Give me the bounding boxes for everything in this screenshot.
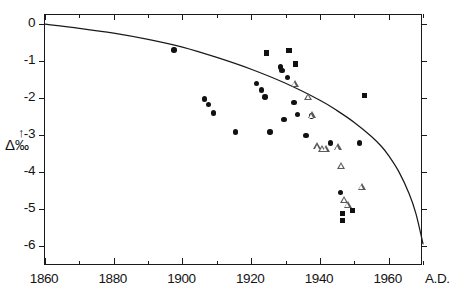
x-axis-minor-tick-top [148,14,149,18]
data-point-circle [259,87,264,92]
x-axis-tick-label: 1860 [18,271,70,286]
x-axis-tick-label: 1960 [362,271,414,286]
data-point-square [362,93,367,98]
y-axis-tick [39,61,45,62]
x-axis-minor-tick [217,261,218,265]
data-point-triangle [322,145,330,152]
y-axis-tick-label: -6 [2,237,35,252]
data-point-circle [267,129,272,134]
y-axis-tick [39,135,45,136]
x-axis-tick-label: 1940 [293,271,345,286]
trend-curve [45,15,423,266]
data-point-circle [171,47,176,52]
data-point-circle [357,140,362,145]
x-axis-tick [114,258,115,265]
x-axis-tick [251,258,252,265]
y-axis-tick-right [421,209,427,210]
x-axis-minor-tick [79,261,80,265]
data-point-circle [206,102,211,107]
x-axis-minor-tick-top [79,14,80,18]
data-point-triangle [304,93,312,100]
x-axis-tick-label: 1900 [155,271,207,286]
y-axis-tick [39,172,45,173]
y-axis-tick-right [421,24,427,25]
y-axis-tick-label: -5 [2,200,35,215]
data-point-circle [254,81,259,86]
data-point-square [340,211,345,216]
data-point-circle [291,100,296,105]
x-axis-minor-tick [354,261,355,265]
x-axis-tick-top [389,14,390,20]
y-axis-tick-label: -4 [2,163,35,178]
y-axis-tick-label: -1 [2,52,35,67]
x-axis-tick [182,258,183,265]
y-axis-tick-right [421,98,427,99]
y-axis-tick-right [421,61,427,62]
x-axis-minor-tick-top [217,14,218,18]
y-axis-tick [39,98,45,99]
data-point-triangle [337,162,345,169]
x-axis-minor-tick-top [286,14,287,18]
data-point-triangle [291,80,299,87]
y-axis-tick-label: 0 [2,15,35,30]
x-axis-tick-top [114,14,115,20]
x-axis-minor-tick [148,261,149,265]
data-point-square [340,218,345,223]
data-point-square [264,50,269,55]
chart-figure: ↑ Δ‰ A.D. 0-1-2-3-4-5-618601880190019201… [0,0,451,299]
x-axis-tick-top [182,14,183,20]
data-point-circle [285,75,290,80]
y-axis-tick-right [421,135,427,136]
data-point-circle [262,94,267,99]
y-axis-tick-right [421,172,427,173]
y-axis-tick [39,209,45,210]
x-axis-tick [389,258,390,265]
data-point-square [293,61,298,66]
x-axis-tick-top [251,14,252,20]
x-axis-minor-tick-top [354,14,355,18]
x-axis-tick [320,258,321,265]
x-axis-tick-label: 1920 [224,271,276,286]
x-axis-minor-tick-top [423,14,424,18]
y-axis-tick-label: -3 [2,126,35,141]
data-point-circle [211,110,216,115]
y-axis-tick-right [421,246,427,247]
plot-area [44,14,422,265]
data-point-triangle [308,111,316,118]
x-axis-minor-tick [286,261,287,265]
y-axis-tick [39,24,45,25]
y-axis-tick [39,246,45,247]
data-point-circle [281,117,286,122]
x-axis-tick-top [320,14,321,20]
data-point-triangle [358,183,366,190]
data-point-square [350,208,355,213]
x-axis-end-label: A.D. [425,271,450,286]
x-axis-tick-top [45,14,46,20]
x-axis-tick-label: 1880 [87,271,139,286]
data-point-square [286,48,291,53]
y-axis-tick-label: -2 [2,89,35,104]
data-point-triangle [334,143,342,150]
x-axis-tick [45,258,46,265]
x-axis-minor-tick [423,261,424,265]
